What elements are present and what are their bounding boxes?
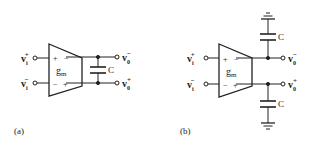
sign-plus-bottom-a: + — [63, 80, 68, 89]
sign-minus-bottom-a: − — [53, 80, 58, 89]
sign-plus-top-b: + — [223, 55, 228, 64]
gm-label-b: gm — [226, 66, 237, 79]
input-terminal-plus-b — [204, 56, 208, 60]
input-plus-label-b: vi+ — [187, 51, 195, 66]
input-minus-label-a: vi− — [21, 76, 29, 91]
output-terminal-minus-a — [115, 55, 119, 59]
sign-plus-top-a: + — [53, 54, 58, 63]
cap-bottom-label-b: C — [278, 99, 284, 109]
figure-b-wiring — [204, 13, 285, 129]
figure-a-wiring — [33, 44, 119, 96]
output-terminal-plus-b — [281, 82, 285, 86]
sign-minus-top-a: − — [64, 54, 69, 63]
circuit-diagram: vi+ vi− + − − + gm C v0− v0+ (a) vi+ vi−… — [0, 0, 317, 146]
output-plus-label-a: v0+ — [122, 76, 131, 91]
output-minus-label-a: v0− — [122, 50, 131, 65]
output-terminal-minus-b — [281, 56, 285, 60]
output-minus-label-b: v0− — [288, 51, 297, 66]
output-terminal-plus-a — [115, 81, 119, 85]
sign-minus-top-b: − — [234, 55, 239, 64]
cap-label-a: C — [108, 65, 114, 75]
input-plus-label-a: vi+ — [21, 51, 29, 66]
input-terminal-plus-a — [33, 56, 37, 60]
input-minus-label-b: vi− — [187, 77, 195, 92]
panel-label-a: (a) — [14, 126, 24, 136]
gm-label-a: gm — [56, 65, 67, 78]
sign-minus-bottom-b: − — [223, 81, 228, 90]
input-terminal-minus-b — [204, 82, 208, 86]
output-plus-label-b: v0+ — [288, 77, 297, 92]
panel-label-b: (b) — [180, 126, 191, 136]
cap-top-label-b: C — [278, 32, 284, 42]
sign-plus-bottom-b: + — [233, 81, 238, 90]
input-terminal-minus-a — [33, 81, 37, 85]
